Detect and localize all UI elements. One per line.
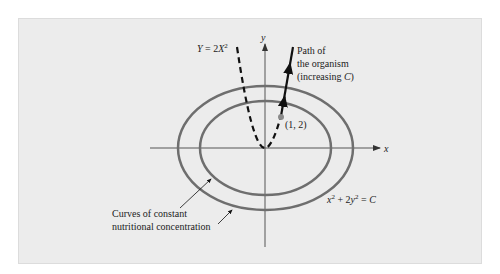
point-label: (1, 2) [285,119,307,131]
organism-label-line2: the organism [297,58,349,69]
eq-rhs: = [359,194,370,205]
parabola-label: Y = 2X2 [197,42,228,54]
organism-label-line3: (increasing C) [297,71,354,83]
point-1-2 [278,114,284,120]
parabola-label-eq: = 2 [203,43,219,54]
leader-arrow-outer [218,210,232,224]
y-axis-label: y [260,32,266,43]
parabola-curve [237,47,281,148]
level-curve-equation: x2 + 2y2 = C [326,193,376,205]
eq-mid: + 2 [335,194,351,205]
diagram-canvas: x y (1, 2) Y = 2X2 Path of the organism … [0,0,500,274]
caption-line2: nutritional concentration [112,221,211,232]
caption-line1: Curves of constant [112,208,187,219]
organism-label-post: ) [351,71,354,83]
parabola-label-exp: 2 [224,42,228,50]
organism-label-line1: Path of [297,45,326,56]
x-axis-label: x [383,143,389,154]
organism-label-pre: (increasing [297,71,344,83]
eq-c: C [369,194,376,205]
